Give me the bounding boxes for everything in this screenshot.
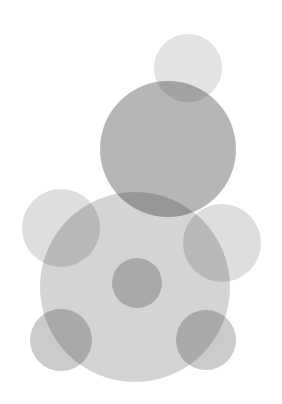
abstract-circles-illustration xyxy=(0,0,282,404)
center-dot-circle xyxy=(112,258,162,308)
artwork-canvas xyxy=(0,0,282,404)
bottom-right-circle xyxy=(176,310,236,370)
bottom-left-circle xyxy=(30,309,92,371)
